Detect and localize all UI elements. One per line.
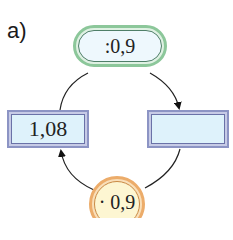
bottom-operator-value: · 0,9 [94, 181, 140, 218]
right-value-blank[interactable] [151, 114, 225, 144]
left-value: 1,08 [11, 114, 85, 144]
right-value-box[interactable] [147, 110, 229, 148]
arc-bottom-left [61, 151, 94, 190]
top-operator-node: :0,9 [73, 25, 167, 67]
left-value-box: 1,08 [7, 110, 89, 148]
top-operator-value: :0,9 [78, 30, 162, 62]
arc-top-left [60, 73, 88, 110]
arc-bottom-right [145, 149, 180, 188]
arc-top-right [150, 73, 179, 108]
